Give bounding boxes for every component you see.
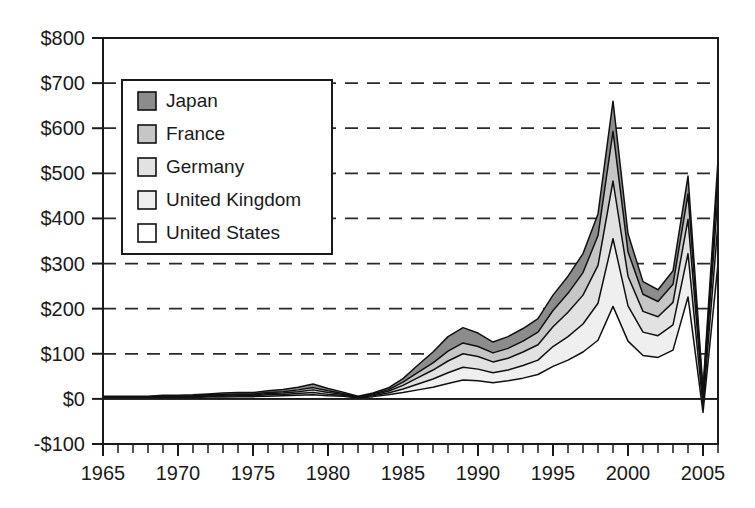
y-tick-label-0: $0: [63, 388, 85, 410]
x-tick-label-1970: 1970: [156, 462, 201, 484]
x-tick-label-1975: 1975: [231, 462, 276, 484]
x-tick-label-2000: 2000: [606, 462, 651, 484]
y-tick-label-300: $300: [41, 253, 86, 275]
legend-swatch-united-states: [138, 224, 156, 242]
y-tick-label-700: $700: [41, 72, 86, 94]
x-tick-label-1985: 1985: [381, 462, 426, 484]
legend-swatch-germany: [138, 158, 156, 176]
legend-label-united-states: United States: [166, 222, 280, 243]
chart-legend: JapanFranceGermanyUnited KingdomUnited S…: [122, 80, 332, 254]
y-tick-label-100: $100: [41, 343, 86, 365]
y-tick-label-600: $600: [41, 117, 86, 139]
y-tick-label--100: -$100: [34, 433, 85, 455]
x-tick-label-2005: 2005: [681, 462, 726, 484]
y-tick-label-800: $800: [41, 27, 86, 49]
stacked-area-chart: $800$700$600$500$400$300$200$100$0-$100 …: [0, 0, 755, 508]
legend-label-france: France: [166, 123, 225, 144]
chart-canvas: $800$700$600$500$400$300$200$100$0-$100 …: [0, 0, 755, 508]
legend-swatch-france: [138, 125, 156, 143]
x-tick-label-1995: 1995: [531, 462, 576, 484]
x-tick-label-1980: 1980: [306, 462, 351, 484]
x-tick-label-1990: 1990: [456, 462, 501, 484]
legend-label-germany: Germany: [166, 156, 245, 177]
x-axis-labels: 196519701975198019851990199520002005: [81, 462, 726, 484]
y-tick-label-200: $200: [41, 298, 86, 320]
y-tick-label-400: $400: [41, 207, 86, 229]
legend-swatch-united-kingdom: [138, 191, 156, 209]
x-tick-label-1965: 1965: [81, 462, 126, 484]
legend-swatch-japan: [138, 92, 156, 110]
chart-background: [0, 0, 755, 508]
legend-label-united-kingdom: United Kingdom: [166, 189, 301, 210]
legend-label-japan: Japan: [166, 90, 218, 111]
y-tick-label-500: $500: [41, 162, 86, 184]
